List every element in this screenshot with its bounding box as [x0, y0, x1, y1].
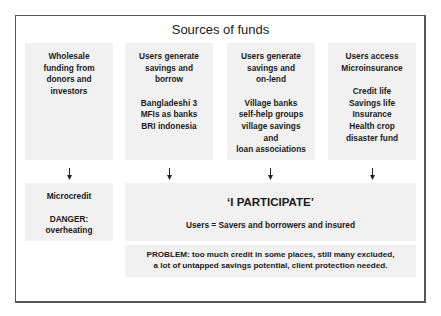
col4-line: Microinsurance — [328, 63, 416, 75]
arrow-down-icon — [369, 168, 376, 180]
col1-line: donors and — [25, 74, 113, 86]
col4-detail: Savings life — [328, 98, 416, 110]
col4-line: Users access — [328, 51, 416, 63]
col3-line: on-lend — [227, 74, 315, 86]
participate-title: ‘I PARTICIPATE’ — [125, 196, 416, 208]
col3-detail: Village banks — [227, 98, 315, 110]
col2-detail: Bangladeshi 3 — [125, 98, 213, 110]
microcredit-label: Microcredit — [25, 191, 113, 202]
col1-line: Wholesale — [25, 51, 113, 63]
diagram-title: Sources of funds — [15, 22, 426, 37]
col3-detail: loan associations — [227, 144, 315, 156]
problem-box: PROBLEM: too much credit in some places,… — [125, 245, 416, 277]
col2-detail: MFIs as banks — [125, 109, 213, 121]
col2-line: savings and — [125, 63, 213, 75]
col3-detail: self-help groups — [227, 109, 315, 121]
col4-detail: Credit life — [328, 86, 416, 98]
column-microinsurance: Users access Microinsurance Credit life … — [328, 43, 416, 160]
participate-box: ‘I PARTICIPATE’ Users = Savers and borro… — [125, 183, 416, 241]
col1-line: funding from — [25, 63, 113, 75]
col2-line: Users generate — [125, 51, 213, 63]
col2-detail: BRI indonesia — [125, 121, 213, 133]
participate-subtitle: Users = Savers and borrowers and insured — [125, 220, 416, 230]
col1-line: investors — [25, 86, 113, 98]
microcredit-box: Microcredit DANGER: overheating — [25, 183, 113, 241]
col4-detail: Insurance — [328, 109, 416, 121]
arrow-down-icon — [166, 168, 173, 180]
col4-detail: Health crop — [328, 121, 416, 133]
col2-line: borrow — [125, 74, 213, 86]
col3-line: Users generate — [227, 51, 315, 63]
arrow-down-icon — [66, 168, 73, 180]
col3-line: savings and — [227, 63, 315, 75]
column-savings-onlend: Users generate savings and on-lend Villa… — [227, 43, 315, 160]
column-savings-borrow: Users generate savings and borrow Bangla… — [125, 43, 213, 160]
danger-detail: overheating — [25, 225, 113, 236]
col3-detail: village savings — [227, 121, 315, 133]
column-wholesale-funding: Wholesale funding from donors and invest… — [25, 43, 113, 160]
problem-line: PROBLEM: too much credit in some places,… — [125, 249, 416, 260]
problem-line: a lot of untapped savings potential, cli… — [125, 260, 416, 271]
col3-detail: and — [227, 133, 315, 145]
arrow-down-icon — [267, 168, 274, 180]
col4-detail: disaster fund — [328, 133, 416, 145]
danger-label: DANGER: — [25, 214, 113, 225]
